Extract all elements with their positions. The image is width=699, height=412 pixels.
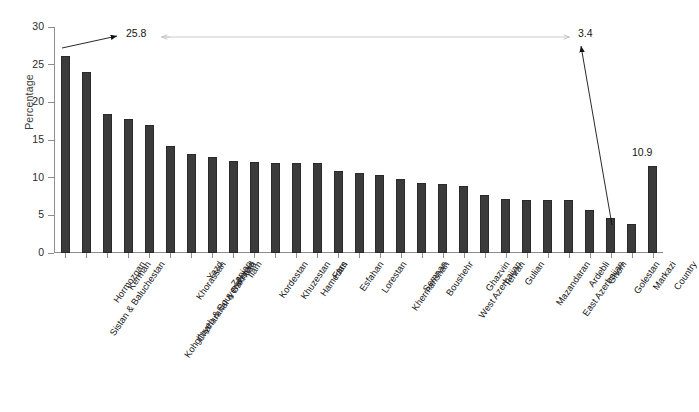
y-tick-label: 20: [18, 96, 44, 107]
y-tick-mark: [48, 177, 54, 178]
bar-chaharahal-bakhtiari: [145, 125, 154, 253]
x-tick-mark: [569, 253, 570, 258]
bar-yazd: [187, 154, 196, 253]
y-tick-mark: [48, 215, 54, 216]
bar-country: [648, 166, 657, 253]
x-tick-mark: [317, 253, 318, 258]
x-tick-mark: [506, 253, 507, 258]
x-tick-mark: [443, 253, 444, 258]
x-tick-mark: [464, 253, 465, 258]
bar-gulian: [501, 199, 510, 253]
bar-ilam: [229, 161, 238, 253]
bar-hormozgan: [82, 72, 91, 253]
x-tick-mark: [653, 253, 654, 258]
y-tick-label: 5: [18, 209, 44, 220]
bar-ghom: [585, 210, 594, 253]
x-tick-mark: [212, 253, 213, 258]
bar-boushehr: [417, 183, 426, 253]
x-tick-mark: [359, 253, 360, 258]
bar-lorestan: [355, 173, 364, 253]
bar-hamedan: [292, 163, 301, 253]
y-tick-mark: [48, 64, 54, 65]
x-tick-mark: [632, 253, 633, 258]
bar-east-azerbaijan: [543, 200, 552, 253]
y-tick-label: 0: [18, 247, 44, 258]
country-value-annotation-label: 10.9: [632, 146, 652, 158]
x-label-fars: Fars: [331, 260, 349, 281]
x-tick-mark: [65, 253, 66, 258]
x-tick-mark: [527, 253, 528, 258]
x-tick-mark: [128, 253, 129, 258]
bar-kerman: [103, 114, 112, 253]
bar-tehran: [480, 195, 489, 253]
x-tick-mark: [611, 253, 612, 258]
y-tick-label: 30: [18, 21, 44, 32]
bar-ghazvin: [459, 186, 468, 253]
x-tick-mark: [380, 253, 381, 258]
bar-kordestan: [250, 162, 259, 253]
x-tick-mark: [338, 253, 339, 258]
y-tick-mark: [48, 27, 54, 28]
x-tick-mark: [149, 253, 150, 258]
bar-khorassan: [166, 146, 175, 253]
x-tick-mark: [233, 253, 234, 258]
bar-esfahan: [334, 171, 343, 253]
x-tick-mark: [485, 253, 486, 258]
y-tick-label: 25: [18, 59, 44, 70]
bar-markazi: [627, 224, 636, 253]
x-tick-mark: [590, 253, 591, 258]
x-tick-mark: [296, 253, 297, 258]
y-tick-mark: [48, 140, 54, 141]
x-tick-mark: [401, 253, 402, 258]
y-tick-mark: [48, 102, 54, 103]
x-tick-mark: [422, 253, 423, 258]
bar-ardebli: [564, 200, 573, 253]
bar-sistan-baluchestan: [61, 56, 70, 253]
x-tick-mark: [254, 253, 255, 258]
bar-mazandaran: [522, 200, 531, 253]
min-value-annotation-label: 3.4: [578, 27, 593, 39]
bar-zanjan: [208, 157, 217, 253]
x-tick-mark: [191, 253, 192, 258]
x-tick-mark: [275, 253, 276, 258]
bar-west-azerbaijan: [438, 184, 447, 253]
x-tick-mark: [170, 253, 171, 258]
max-value-annotation-label: 25.8: [126, 27, 146, 39]
bar-khuzestan: [271, 163, 280, 253]
y-tick-label: 10: [18, 172, 44, 183]
bar-golestan: [606, 218, 615, 253]
x-tick-mark: [86, 253, 87, 258]
x-tick-mark: [107, 253, 108, 258]
bar-semnan: [396, 179, 405, 253]
bars-container: [55, 27, 663, 253]
y-tick-label: 15: [18, 134, 44, 145]
bar-khermanshah: [375, 175, 384, 253]
bar-kohgiluyeh-bouyerahmad: [124, 119, 133, 253]
x-tick-mark: [548, 253, 549, 258]
bar-fars: [313, 163, 322, 253]
x-label-mazandaran: Mazandaran: [555, 260, 592, 308]
